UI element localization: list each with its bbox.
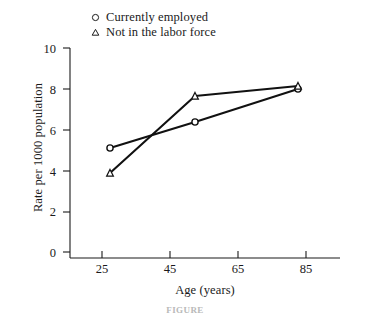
figure-root: Currently employed Not in the labor forc…: [0, 0, 370, 315]
figure-caption: FIGURE: [0, 305, 370, 315]
y-axis-ticks: [63, 48, 70, 252]
data-point-circle: [192, 119, 198, 125]
x-axis-ticks: [102, 251, 306, 258]
plot-area: [0, 0, 370, 315]
data-point-circle: [107, 145, 113, 151]
